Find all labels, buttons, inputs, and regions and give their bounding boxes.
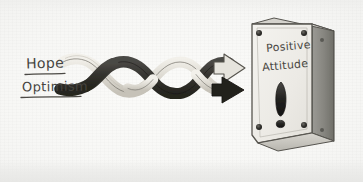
screw-side-bottom [320, 128, 324, 132]
arrow-lower-solid [212, 77, 244, 103]
screw-bottom-left [256, 124, 262, 130]
positive-attitude-plaque [252, 18, 334, 151]
screw-side-top [320, 38, 324, 42]
underline-hope [25, 73, 65, 74]
screw-top-left [256, 30, 262, 36]
label-hope: Hope [26, 55, 65, 72]
label-optimism: Optimism [22, 78, 88, 94]
screw-top-right [301, 30, 307, 36]
sketch-canvas: Hope Optimism Positive Attitude [0, 0, 363, 182]
screw-bottom-right [301, 122, 307, 128]
underline-optimism [21, 96, 81, 97]
